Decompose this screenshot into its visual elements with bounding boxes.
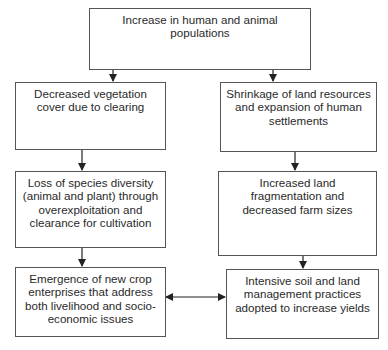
node-top: Increase in human and animal populations [89, 8, 311, 70]
node-label: Increase in human and animal populations [90, 13, 310, 40]
node-label: Loss of species diversity (animal and pl… [16, 176, 165, 230]
node-label: Intensive soil and land management pract… [227, 274, 378, 314]
node-left2: Loss of species diversity (animal and pl… [15, 171, 166, 248]
node-label: Increased land fragmentation and decreas… [219, 176, 376, 216]
node-left1: Decreased vegetation cover due to cleari… [15, 82, 166, 150]
node-right1: Shrinkage of land resources and expansio… [220, 82, 377, 152]
node-right3: Intensive soil and land management pract… [226, 269, 379, 339]
node-label: Decreased vegetation cover due to cleari… [16, 87, 165, 114]
node-label: Emergence of new crop enterprises that a… [16, 272, 165, 326]
node-right2: Increased land fragmentation and decreas… [218, 171, 377, 256]
node-left3: Emergence of new crop enterprises that a… [15, 267, 166, 337]
node-label: Shrinkage of land resources and expansio… [221, 87, 376, 127]
